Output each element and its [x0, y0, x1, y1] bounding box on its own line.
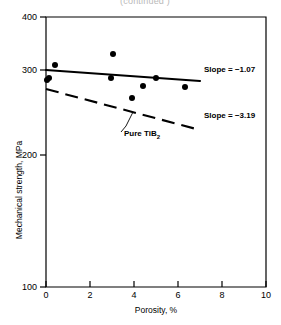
annotation-pure-tib2-text: Pure TiB: [124, 129, 157, 138]
data-point: [182, 84, 188, 90]
data-point: [140, 83, 146, 89]
trend-line-slope-3-19-dashed: [46, 89, 200, 130]
x-axis-ticks: [46, 281, 266, 287]
annotation-pure-tib2-subscript: 2: [157, 134, 161, 140]
y-axis-title: Mechanical strength, MPa: [14, 141, 24, 240]
annotation-pure-tib2: Pure TiB2: [124, 129, 161, 140]
plot-canvas: 400 300 200 100 0 2 4 6 8 10 Porosity, %…: [0, 0, 281, 325]
x-tick-label-4: 4: [131, 290, 136, 300]
y-tick-label-300: 300: [22, 65, 37, 75]
frame-border: [46, 17, 266, 287]
y-axis-ticks: [40, 17, 46, 287]
y-tick-label-100: 100: [22, 282, 37, 292]
y-axis-tick-labels: 400 300 200 100: [22, 12, 37, 292]
data-point: [129, 95, 135, 101]
x-axis-tick-labels: 0 2 4 6 8 10: [43, 290, 271, 300]
y-tick-label-400: 400: [22, 12, 37, 22]
y-tick-label-200: 200: [22, 150, 37, 160]
plot-frame: [46, 17, 266, 287]
x-tick-label-6: 6: [175, 290, 180, 300]
data-point: [110, 51, 116, 57]
x-tick-label-8: 8: [219, 290, 224, 300]
figure-scatter-plot: (continued ) 400 300 200 100: [0, 0, 281, 325]
x-axis-title: Porosity, %: [135, 305, 178, 315]
annotation-slope-lower: Slope = −3.19: [204, 111, 256, 120]
data-point: [108, 75, 114, 81]
x-tick-label-0: 0: [43, 290, 48, 300]
annotation-slope-upper: Slope = −1.07: [204, 65, 256, 74]
data-point: [46, 75, 52, 81]
trend-line-slope-1-07: [46, 70, 200, 81]
x-tick-label-10: 10: [261, 290, 271, 300]
data-point: [52, 62, 58, 68]
data-point: [153, 75, 159, 81]
x-tick-label-2: 2: [87, 290, 92, 300]
